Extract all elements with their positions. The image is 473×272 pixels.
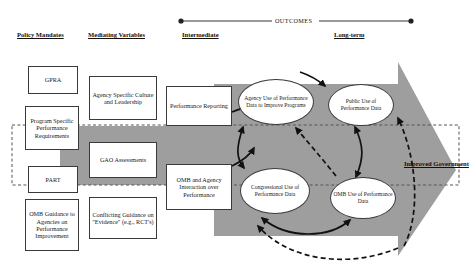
ellipse-congressional-use-of-performance-data-label: Congressional Use of Performance Data — [243, 184, 307, 197]
header-intermediate: Intermediate — [182, 31, 219, 38]
ellipse-congressional-use-of-performance-data[interactable]: Congressional Use of Performance Data — [240, 168, 310, 214]
ellipse-agency-use-of-performance-data[interactable]: Agency Use of Performance Data to Improv… — [238, 79, 314, 125]
header-policy-mandates: Policy Mandates — [17, 31, 64, 38]
connector-arrows — [0, 0, 473, 272]
arrow-congressional-to-omb — [262, 218, 350, 234]
outcomes-band-label-text: OUTCOMES — [275, 17, 312, 24]
dashed-arrow-omb-to-agency-use — [296, 128, 336, 176]
ellipse-agency-use-of-performance-data-label: Agency Use of Performance Data to Improv… — [241, 95, 311, 108]
header-long-term: Long-term — [334, 31, 364, 38]
header-long-term-label: Long-term — [334, 31, 364, 38]
improved-government-label-text: Improved Government — [404, 160, 469, 167]
ellipse-omb-use-of-performance-data[interactable]: OMB Use of Performance Data — [330, 177, 396, 219]
arrow-into-public-use — [300, 72, 325, 86]
header-policy-mandates-label: Policy Mandates — [17, 31, 64, 38]
ellipse-omb-use-of-performance-data-label: OMB Use of Performance Data — [333, 191, 393, 204]
ellipse-public-use-of-performance-data-label: Public Use of Performance Data — [331, 98, 391, 111]
header-mediating-variables: Mediating Variables — [88, 31, 145, 38]
header-mediating-variables-label: Mediating Variables — [88, 31, 145, 38]
header-intermediate-label: Intermediate — [182, 31, 219, 38]
arrow-public-to-omb — [355, 127, 362, 177]
arrow-interaction-to-outcomes — [232, 148, 254, 166]
dashed-arrow-right-loop — [398, 118, 415, 246]
outcomes-band-label: OUTCOMES — [275, 17, 312, 24]
diagram-canvas: GPRA Program Specific Performance Requir… — [0, 0, 473, 272]
improved-government-label: Improved Government — [404, 160, 468, 168]
ellipse-public-use-of-performance-data[interactable]: Public Use of Performance Data — [328, 84, 394, 126]
